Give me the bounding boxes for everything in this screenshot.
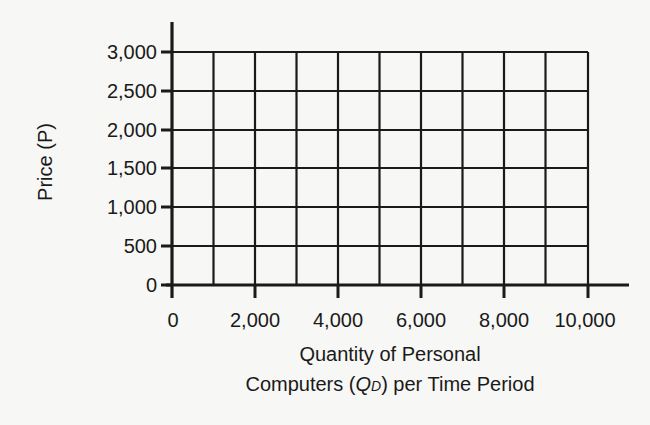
x-tick-labels: 0 2,000 4,000 6,000 8,000 10,000	[167, 309, 615, 331]
y-axis-label: Price (P)	[34, 123, 56, 201]
x-axis-label-line2: Computers (QD) per Time Period	[245, 373, 534, 395]
x-tick-label: 2,000	[230, 309, 280, 331]
x-axis-label-d: D	[371, 378, 381, 394]
x-tick-label: 8,000	[479, 309, 529, 331]
y-tick-labels: 3,000 2,500 2,000 1,500 1,000 500 0	[107, 41, 157, 296]
y-tick-label: 500	[124, 235, 157, 257]
x-axis-label-pre: Computers (	[245, 373, 355, 395]
y-tick-label: 1,500	[107, 157, 157, 179]
y-tick-label: 2,500	[107, 80, 157, 102]
y-tick-label: 1,000	[107, 196, 157, 218]
y-tick-marks	[161, 52, 172, 285]
y-tick-label: 0	[146, 274, 157, 296]
x-tick-marks	[255, 285, 588, 298]
x-axis-label-post: ) per Time Period	[381, 373, 534, 395]
x-tick-label: 4,000	[313, 309, 363, 331]
x-axis-label-q: Q	[355, 373, 371, 395]
x-tick-label: 0	[167, 309, 178, 331]
x-tick-label: 10,000	[554, 309, 615, 331]
x-axis-label-line1: Quantity of Personal	[299, 343, 480, 365]
chart-canvas: 3,000 2,500 2,000 1,500 1,000 500 0 0 2,…	[0, 0, 650, 425]
y-tick-label: 2,000	[107, 119, 157, 141]
y-tick-label: 3,000	[107, 41, 157, 63]
x-tick-label: 6,000	[396, 309, 446, 331]
